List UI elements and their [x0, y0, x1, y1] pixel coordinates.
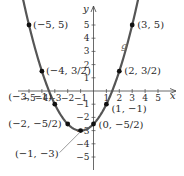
y-tick-label: 4 — [84, 33, 90, 43]
x-axis-label: x — [170, 90, 176, 101]
x-tick-label: 5 — [155, 93, 161, 103]
curve-label: g — [121, 40, 127, 51]
x-tick-label: 3 — [129, 93, 135, 103]
data-point — [117, 69, 122, 74]
parabola-graph: −5−4−3−2−112345−5−4−3−2−112345 (−5, 5)(−… — [0, 0, 184, 176]
point-label: (−5, 5) — [33, 19, 68, 30]
data-point — [104, 102, 109, 107]
x-tick-label: −2 — [61, 93, 74, 103]
point-label: (−1, −3) — [15, 148, 59, 159]
y-tick-label: 5 — [84, 20, 90, 30]
data-point — [52, 102, 57, 107]
data-point — [78, 128, 83, 133]
y-axis-label: y — [82, 3, 89, 14]
point-label: (2, 3/2) — [124, 65, 161, 76]
y-tick-label: −4 — [76, 139, 90, 149]
data-point — [130, 23, 135, 28]
point-label: (1, −1) — [111, 103, 146, 114]
x-tick-label: 2 — [116, 93, 122, 103]
point-label: (−2, −5/2) — [8, 118, 61, 129]
y-tick-label: −1 — [76, 99, 89, 109]
point-label: (−4, 3/2) — [46, 65, 91, 76]
point-label: (3, 5) — [137, 19, 164, 30]
data-point — [91, 122, 96, 127]
x-tick-label: 4 — [142, 93, 148, 103]
y-tick-label: 3 — [84, 46, 90, 56]
data-point — [40, 69, 45, 74]
point-label: (0, −5/2) — [99, 119, 144, 130]
point-label: (−3, −1) — [8, 91, 52, 102]
data-point — [65, 122, 70, 127]
y-tick-label: −5 — [76, 152, 90, 162]
y-tick-label: −2 — [76, 112, 89, 122]
data-point — [27, 23, 32, 28]
